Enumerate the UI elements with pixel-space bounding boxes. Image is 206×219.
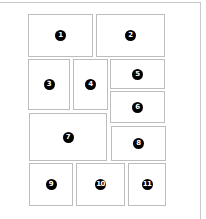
number-badge-2: 2 — [125, 30, 136, 41]
panel-1: 1 — [28, 14, 93, 57]
number-badge-5: 5 — [132, 69, 143, 80]
number-badge-8: 8 — [133, 138, 144, 149]
panel-6: 6 — [110, 91, 165, 123]
number-badge-1: 1 — [55, 30, 66, 41]
panel-10: 10 — [76, 163, 125, 206]
number-badge-7: 7 — [63, 132, 74, 143]
number-badge-3: 3 — [44, 79, 55, 90]
number-badge-11: 11 — [142, 179, 153, 190]
number-badge-10: 10 — [95, 179, 106, 190]
panel-3: 3 — [28, 59, 70, 110]
number-badge-9: 9 — [46, 179, 57, 190]
panel-4: 4 — [73, 59, 108, 110]
panel-7: 7 — [29, 113, 107, 161]
panel-8: 8 — [111, 126, 166, 161]
number-badge-6: 6 — [132, 102, 143, 113]
panel-5: 5 — [110, 59, 165, 89]
panel-11: 11 — [128, 163, 166, 206]
number-badge-4: 4 — [85, 79, 96, 90]
panel-2: 2 — [96, 14, 165, 57]
panel-9: 9 — [29, 163, 73, 206]
